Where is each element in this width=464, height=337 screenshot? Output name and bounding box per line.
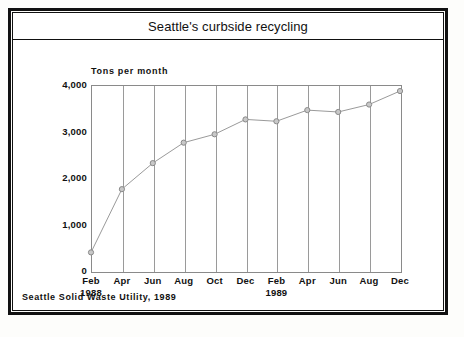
data-point-marker [336, 109, 341, 114]
series-line [91, 91, 400, 252]
series-line-chart [13, 40, 443, 311]
chart-title: Seattle's curbside recycling [148, 19, 308, 34]
plot-area: Tons per month 01,0002,0003,0004,000 Feb… [13, 40, 443, 311]
data-point-marker [274, 119, 279, 124]
data-point-marker [150, 161, 155, 166]
source-note: Seattle Solid Waste Utility, 1989 [22, 292, 176, 302]
data-point-marker [181, 140, 186, 145]
data-point-marker [119, 187, 124, 192]
data-point-marker [397, 88, 402, 93]
chart-figure: Seattle's curbside recycling Tons per mo… [0, 0, 464, 337]
data-point-marker [305, 108, 310, 113]
data-point-marker [212, 132, 217, 137]
x-year-label: 1989 [254, 287, 298, 298]
data-point-marker [88, 250, 93, 255]
data-point-marker [243, 117, 248, 122]
data-point-marker [367, 102, 372, 107]
title-band: Seattle's curbside recycling [13, 13, 443, 40]
x-tick-label: Dec [380, 275, 420, 286]
